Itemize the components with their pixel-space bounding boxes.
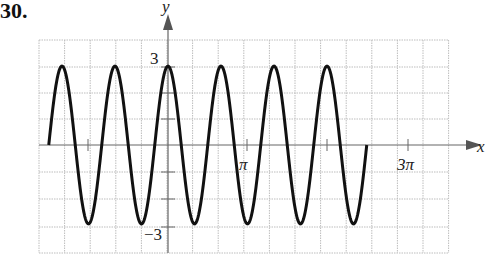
y-tick-3: 3 [150,49,159,68]
y-tick-minus-3: −3 [144,225,162,244]
y-axis-label: y [160,0,170,16]
x-tick-pi: π [239,155,248,174]
x-tick-3pi: 3π [396,155,415,174]
x-axis-label: x [476,137,485,156]
sine-graph: x y 3 −3 π 3π [0,0,485,255]
y-axis-arrow-icon [163,14,173,30]
